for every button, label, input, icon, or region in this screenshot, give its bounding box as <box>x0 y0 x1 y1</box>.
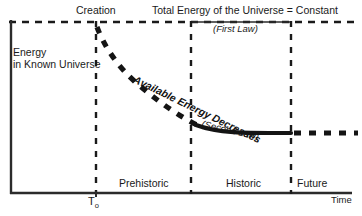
label-total-energy-title: Total Energy of the Universe = Constant <box>152 5 338 17</box>
origin-tick-label: To <box>88 195 99 211</box>
label-creation: Creation <box>76 5 116 17</box>
era-label-future: Future <box>297 178 327 190</box>
era-label-historic: Historic <box>226 178 261 190</box>
energy-universe-diagram: Creation Total Energy of the Universe = … <box>0 0 362 216</box>
era-label-prehistoric: Prehistoric <box>119 178 169 190</box>
y-axis-label: Energy in Known Universe <box>13 47 101 71</box>
y-axis-label-line1: Energy <box>13 47 101 59</box>
label-first-law: (First Law) <box>213 24 258 35</box>
origin-tick-letter: T <box>88 195 95 207</box>
x-axis-label: Time <box>331 195 352 206</box>
y-axis-label-line2: in Known Universe <box>13 59 101 71</box>
available-energy-curve-dashed <box>97 27 203 128</box>
origin-tick-subscript: o <box>95 201 99 210</box>
